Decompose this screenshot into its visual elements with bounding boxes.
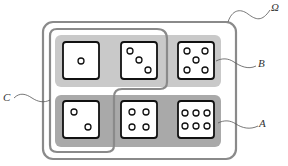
event-b-label: B <box>258 57 265 69</box>
die-face-1 <box>63 42 99 79</box>
die-face-2 <box>63 101 99 138</box>
event-a-label: A <box>259 117 266 129</box>
c-leader-line <box>14 94 50 102</box>
omega-leader-line <box>228 10 270 22</box>
die-face-4 <box>121 101 157 138</box>
die-face-5 <box>178 42 214 79</box>
omega-label: Ω <box>271 1 279 13</box>
event-c-label: C <box>3 91 10 103</box>
a-leader-line <box>218 121 258 128</box>
die-face-6 <box>178 101 214 138</box>
venn-diagram <box>0 0 288 166</box>
die-face-3 <box>121 42 157 79</box>
